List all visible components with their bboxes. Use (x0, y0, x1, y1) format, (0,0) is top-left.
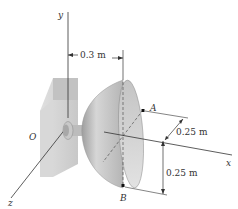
point-a-label: A (149, 103, 157, 113)
y-axis-label: y (57, 10, 64, 20)
offset-dimension-label: 0.3 m (80, 50, 106, 60)
dimension-a-0-25m: 0.25 m (165, 119, 208, 140)
point-b-label: B (119, 193, 127, 203)
dimension-b-0-25m: 0.25 m (161, 141, 198, 194)
a-offset-dimension-label: 0.25 m (176, 127, 208, 137)
b-offset-dimension-label: 0.25 m (166, 168, 198, 178)
x-axis-label: x (226, 158, 231, 168)
diagram-svg: y z O x 0.3 m (0, 0, 238, 209)
point-a-marker (142, 109, 145, 112)
dimension-0-3m: 0.3 m (68, 50, 123, 80)
origin-label: O (29, 132, 37, 142)
point-b-marker (122, 184, 125, 187)
diagram-canvas: y z O x 0.3 m (0, 0, 238, 209)
z-axis-label: z (7, 198, 13, 208)
